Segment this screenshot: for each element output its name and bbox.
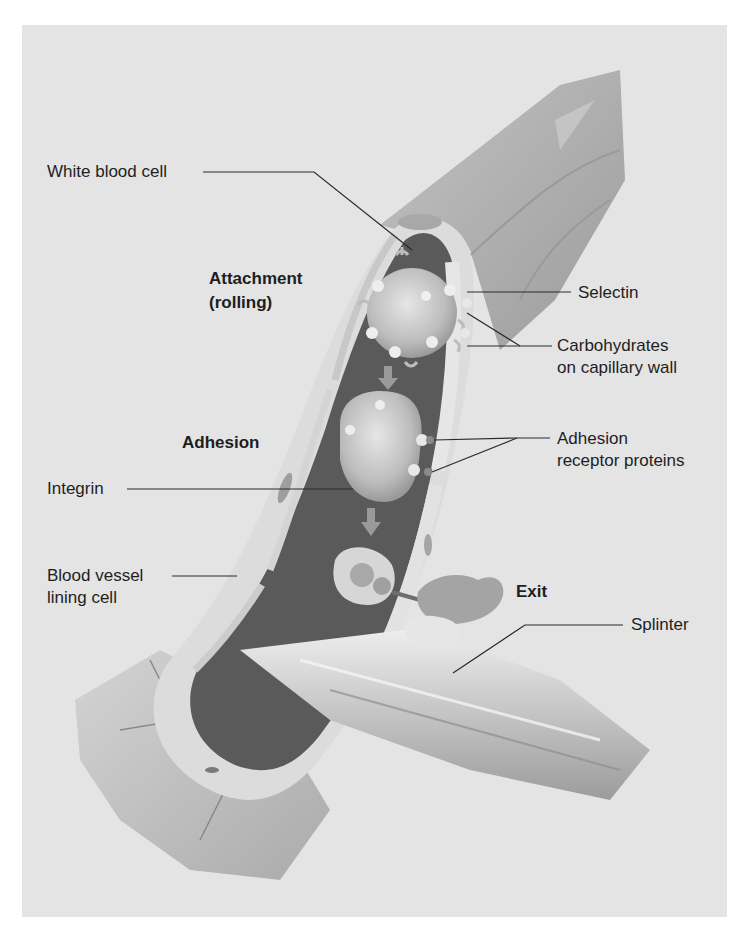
label-adhesion-receptor: Adhesion	[557, 428, 628, 449]
label-receptor-proteins: receptor proteins	[557, 450, 685, 471]
label-splinter: Splinter	[631, 614, 689, 635]
label-attachment: Attachment	[209, 268, 303, 289]
label-exit-stage: Exit	[516, 581, 547, 602]
label-white-blood-cell: White blood cell	[47, 161, 167, 182]
label-rolling: (rolling)	[209, 292, 272, 313]
leader-white-blood-cell	[203, 172, 412, 250]
label-lining-cell: lining cell	[47, 587, 117, 608]
label-integrin: Integrin	[47, 478, 104, 499]
label-selectin: Selectin	[578, 282, 638, 303]
label-on-capillary-wall: on capillary wall	[557, 357, 677, 378]
label-blood-vessel: Blood vessel	[47, 565, 143, 586]
label-carbohydrates: Carbohydrates	[557, 335, 669, 356]
label-adhesion-stage: Adhesion	[182, 432, 259, 453]
